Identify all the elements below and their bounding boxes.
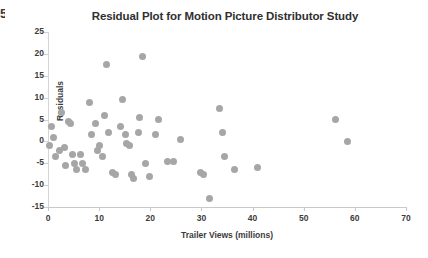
scatter-point: [254, 164, 261, 171]
scatter-point: [61, 144, 68, 151]
y-tick-label: 20: [20, 49, 44, 58]
x-tick-label: 60: [340, 214, 370, 223]
x-tick-mark: [150, 207, 151, 211]
scatter-point: [216, 105, 223, 112]
y-tick-label: 15: [20, 71, 44, 80]
y-tick-label-wrap: -10: [0, 180, 44, 190]
x-tick-label: 50: [289, 214, 319, 223]
scatter-point: [135, 129, 142, 136]
x-tick-mark: [406, 207, 407, 211]
scatter-point: [136, 114, 143, 121]
scatter-point: [219, 129, 226, 136]
scatter-point: [231, 166, 238, 173]
scatter-point: [96, 142, 103, 149]
y-tick-label-wrap: -15: [0, 202, 44, 212]
x-tick-mark: [355, 207, 356, 211]
scatter-point: [103, 61, 110, 68]
scatter-point: [332, 116, 339, 123]
x-tick-label: 20: [135, 214, 165, 223]
y-tick-label-wrap: 5: [0, 115, 44, 125]
y-tick-label: 25: [20, 27, 44, 36]
scatter-point: [119, 96, 126, 103]
scatter-point: [126, 142, 133, 149]
scatter-point: [99, 153, 106, 160]
scatter-point: [48, 123, 55, 130]
scatter-point: [69, 151, 76, 158]
x-tick-mark: [99, 207, 100, 211]
y-axis-title: Residuals: [55, 61, 65, 141]
scatter-point: [177, 136, 184, 143]
scatter-point: [62, 162, 69, 169]
y-tick-label-wrap: 10: [0, 93, 44, 103]
x-axis-line: [48, 207, 406, 208]
y-tick-label-wrap: 20: [0, 49, 44, 59]
scatter-point: [73, 166, 80, 173]
y-tick-label-wrap: 15: [0, 71, 44, 81]
scatter-point: [122, 131, 129, 138]
x-tick-label: 30: [186, 214, 216, 223]
scatter-point: [155, 116, 162, 123]
x-tick-mark: [304, 207, 305, 211]
scatter-point: [67, 120, 74, 127]
scatter-point: [46, 142, 53, 149]
scatter-point: [88, 131, 95, 138]
x-tick-label: 10: [84, 214, 114, 223]
x-tick-label: 70: [391, 214, 421, 223]
y-tick-label: 0: [20, 136, 44, 145]
scatter-point: [344, 138, 351, 145]
cropped-edge-artifact: 5: [0, 6, 5, 22]
scatter-point: [82, 166, 89, 173]
scatter-point: [77, 151, 84, 158]
x-tick-label: 0: [33, 214, 63, 223]
y-tick-label-wrap: 0: [0, 136, 44, 146]
y-tick-label-wrap: -5: [0, 158, 44, 168]
scatter-point: [117, 123, 124, 130]
y-tick-label: -15: [20, 202, 44, 211]
scatter-point: [92, 120, 99, 127]
x-tick-label: 40: [238, 214, 268, 223]
residual-scatter-chart: 5 Residual Plot for Motion Picture Distr…: [0, 0, 428, 258]
scatter-point: [139, 53, 146, 60]
x-tick-mark: [201, 207, 202, 211]
scatter-point: [146, 173, 153, 180]
scatter-point: [86, 99, 93, 106]
scatter-point: [200, 171, 207, 178]
chart-title: Residual Plot for Motion Picture Distrib…: [60, 10, 390, 22]
y-tick-label: -5: [20, 158, 44, 167]
x-axis-title: Trailer Views (millions): [48, 230, 406, 240]
scatter-point: [152, 131, 159, 138]
scatter-point: [221, 153, 228, 160]
y-tick-label: 10: [20, 93, 44, 102]
x-tick-mark: [253, 207, 254, 211]
scatter-point: [52, 153, 59, 160]
scatter-point: [206, 195, 213, 202]
scatter-point: [130, 175, 137, 182]
y-tick-label: -10: [20, 180, 44, 189]
y-tick-label-wrap: 25: [0, 27, 44, 37]
y-tick-label: 5: [20, 115, 44, 124]
scatter-point: [50, 134, 57, 141]
scatter-point: [101, 112, 108, 119]
plot-area: Residuals: [48, 32, 406, 207]
scatter-point: [105, 129, 112, 136]
scatter-point: [170, 158, 177, 165]
scatter-point: [142, 160, 149, 167]
scatter-point: [112, 171, 119, 178]
x-tick-mark: [48, 207, 49, 211]
